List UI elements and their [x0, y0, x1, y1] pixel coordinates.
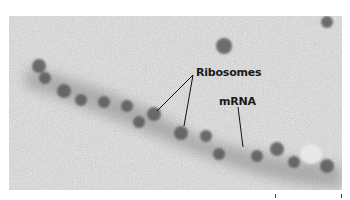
ribosomes-label: Ribosomes — [196, 66, 261, 79]
micrograph-texture — [9, 16, 342, 190]
micrograph-image: Ribosomes mRNA — [9, 16, 342, 190]
scale-bar — [275, 194, 342, 198]
mrna-label: mRNA — [219, 95, 256, 108]
